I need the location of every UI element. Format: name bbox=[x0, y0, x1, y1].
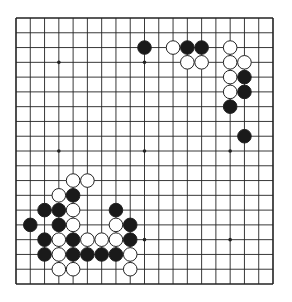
black-stone bbox=[23, 218, 37, 232]
white-stone bbox=[95, 233, 109, 247]
white-stone bbox=[109, 233, 123, 247]
go-board bbox=[0, 0, 292, 302]
black-stone bbox=[123, 233, 137, 247]
white-stone bbox=[223, 70, 237, 84]
star-point bbox=[143, 61, 147, 65]
white-stone bbox=[123, 262, 137, 276]
white-stone bbox=[66, 262, 80, 276]
stones-layer bbox=[23, 41, 251, 276]
white-stone bbox=[66, 218, 80, 232]
white-stone bbox=[66, 203, 80, 217]
black-stone bbox=[238, 129, 252, 143]
white-stone bbox=[52, 248, 66, 262]
black-stone bbox=[66, 233, 80, 247]
white-stone bbox=[52, 262, 66, 276]
black-stone bbox=[81, 248, 95, 262]
star-point bbox=[143, 238, 147, 242]
white-stone bbox=[81, 174, 95, 188]
white-stone bbox=[123, 248, 137, 262]
black-stone bbox=[38, 233, 52, 247]
star-point bbox=[57, 61, 61, 65]
black-stone bbox=[66, 248, 80, 262]
black-stone bbox=[38, 203, 52, 217]
black-stone bbox=[38, 248, 52, 262]
white-stone bbox=[52, 233, 66, 247]
star-point bbox=[228, 238, 232, 242]
black-stone bbox=[123, 218, 137, 232]
star-point bbox=[57, 149, 61, 153]
white-stone bbox=[181, 56, 195, 70]
black-stone bbox=[223, 100, 237, 114]
white-stone bbox=[195, 56, 209, 70]
white-stone bbox=[223, 41, 237, 55]
black-stone bbox=[52, 203, 66, 217]
black-stone bbox=[95, 248, 109, 262]
white-stone bbox=[223, 85, 237, 99]
black-stone bbox=[181, 41, 195, 55]
black-stone bbox=[238, 85, 252, 99]
black-stone bbox=[109, 203, 123, 217]
white-stone bbox=[52, 189, 66, 203]
white-stone bbox=[223, 56, 237, 70]
black-stone bbox=[238, 70, 252, 84]
white-stone bbox=[166, 41, 180, 55]
black-stone bbox=[52, 218, 66, 232]
black-stone bbox=[195, 41, 209, 55]
black-stone bbox=[138, 41, 152, 55]
white-stone bbox=[238, 56, 252, 70]
white-stone bbox=[109, 218, 123, 232]
star-point bbox=[143, 149, 147, 153]
black-stone bbox=[109, 248, 123, 262]
black-stone bbox=[66, 189, 80, 203]
star-point bbox=[228, 149, 232, 153]
white-stone bbox=[66, 174, 80, 188]
white-stone bbox=[81, 233, 95, 247]
